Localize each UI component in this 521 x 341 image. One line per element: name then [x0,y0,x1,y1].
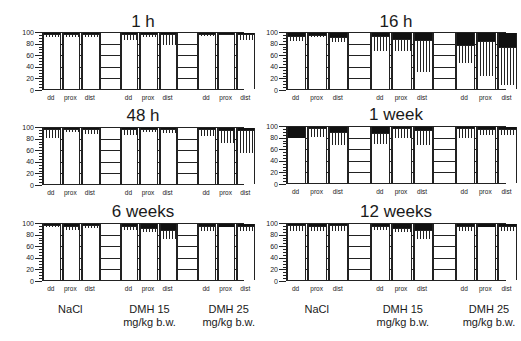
bar-segment-hatched [141,34,157,37]
y-tick-label: 0 [260,181,278,188]
bar-segment-normal [122,40,138,89]
gap-gridline [101,67,120,68]
separator-tick [475,235,476,236]
bar-segment-hatched [478,41,495,76]
plot-area [42,223,244,281]
y-tick-mark [279,55,286,56]
plot-area [42,127,244,185]
y-tick-mark [279,149,286,150]
y-tick-label: 60 [260,52,278,59]
gap-gridline [101,269,120,270]
bar-segment-normal [83,228,99,280]
y-tick-label: 60 [260,146,278,153]
separator-tick [390,161,391,162]
separator-tick [390,44,391,45]
separator-tick [216,246,217,247]
separator-tick [216,235,217,236]
y-tick-mark [35,281,42,282]
bar-segment-normal [141,132,157,184]
bar-segment-hatched [83,34,99,37]
separator-tick [306,246,307,247]
stacked-bar [43,224,61,280]
separator-tick [216,269,217,270]
bar-segment-normal [122,230,138,280]
y-tick-mark [35,32,42,33]
separator-tick [80,269,81,270]
stacked-bar [43,33,61,89]
stacked-bar [456,127,475,183]
gap-gridline [101,246,120,247]
bar-segment-black [330,33,347,37]
bar-segment-black [288,224,305,225]
gap-gridline [178,246,197,247]
gap-gridline [349,235,370,236]
bar-segment-black [83,33,99,34]
bar-segment-black [64,128,80,129]
bar-segment-black [64,33,80,34]
y-tick-label: 0 [260,87,278,94]
bar-segment-black [309,127,326,128]
separator-tick [306,138,307,139]
bar-segment-hatched [141,129,157,133]
x-category-label: dist [410,188,434,195]
stacked-bar [392,33,411,89]
plot-area [286,126,506,184]
separator-tick [235,150,236,151]
group-label: DMH 15mg/kg b.w. [363,303,443,329]
separator-tick [475,149,476,150]
stacked-bar [308,33,327,89]
x-category-label: dist [410,285,434,292]
y-tick-label: 100 [16,29,34,36]
bar-segment-hatched [199,226,215,230]
bar-segment-normal [83,37,99,89]
separator-tick [496,246,497,247]
gap-gridline [349,138,370,139]
bar-segment-hatched [330,225,347,232]
separator-tick [327,269,328,270]
bar-segment-normal [457,231,474,280]
bar-segment-black [457,33,474,45]
separator-tick [235,78,236,79]
bar-segment-hatched [238,34,254,40]
gap-gridline [349,78,370,79]
bar-segment-black [288,127,305,138]
separator-tick [475,269,476,270]
stacked-bar [198,224,216,280]
gap-gridline [434,246,455,247]
separator-tick [80,258,81,259]
gap-gridline [349,161,370,162]
bar-segment-normal [393,138,410,183]
bar-segment-hatched [415,40,432,72]
stacked-bar [477,224,496,280]
y-tick-label: 100 [260,220,278,227]
gap-gridline [178,150,197,151]
x-category-label: dist [233,285,257,292]
separator-tick [306,258,307,259]
bar-segment-black [199,224,215,226]
group-label: DMH 25mg/kg b.w. [449,303,521,329]
separator-tick [61,150,62,151]
bar-segment-black [141,224,157,228]
separator-tick [158,78,159,79]
y-tick-mark [35,173,42,174]
stacked-bar [498,224,517,280]
bar-segment-normal [288,41,305,89]
x-category-label: dist [326,94,350,101]
y-tick-label: 60 [16,52,34,59]
bar-segment-black [238,224,254,226]
bar-segment-normal [288,231,305,280]
separator-tick [235,55,236,56]
stacked-bar [121,128,139,184]
bar-segment-black [330,224,347,225]
y-tick-mark [279,138,286,139]
gap-gridline [178,55,197,56]
bar-segment-hatched [372,226,389,230]
separator-tick [306,67,307,68]
y-tick-label: 20 [260,75,278,82]
bar-segment-normal [219,35,235,89]
separator-tick [216,44,217,45]
y-tick-label: 60 [16,243,34,250]
y-tick-label: 100 [260,29,278,36]
bar-segment-hatched [44,129,60,139]
gap-gridline [349,246,370,247]
